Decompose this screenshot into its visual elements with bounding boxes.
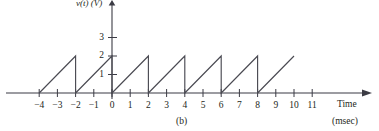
x-tick-label: −1 <box>86 101 102 111</box>
x-tick-label: −4 <box>31 101 47 111</box>
x-axis <box>6 90 372 97</box>
x-tick-label: 6 <box>213 101 229 111</box>
x-tick-label: 7 <box>231 101 247 111</box>
x-tick-label: 9 <box>268 101 284 111</box>
figure-sawtooth-waveform: v(t) (V) 3 2 1 −4 −3 −2 −1 0 1 2 3 4 5 6… <box>0 0 379 131</box>
figure-caption: (b) <box>176 117 187 127</box>
x-tick-label: 0 <box>104 101 120 111</box>
plot-canvas <box>0 0 379 131</box>
x-axis-title: Time <box>337 100 357 110</box>
x-tick-label: −3 <box>49 101 65 111</box>
x-tick-label: 4 <box>177 101 193 111</box>
y-tick-label: 3 <box>88 33 104 43</box>
x-tick-label: 2 <box>140 101 156 111</box>
x-axis-unit-label: (msec) <box>332 117 358 127</box>
x-tick-label: 10 <box>286 101 302 111</box>
y-tick-label: 2 <box>88 51 104 61</box>
waveform-trace <box>39 56 294 93</box>
y-axis-label: v(t) (V) <box>76 0 102 8</box>
x-tick-label: 5 <box>195 101 211 111</box>
x-tick-label: 3 <box>159 101 175 111</box>
x-tick-label: 1 <box>122 101 138 111</box>
x-tick-label: −2 <box>68 101 84 111</box>
x-tick-label: 11 <box>304 101 320 111</box>
y-tick-label: 1 <box>88 70 104 80</box>
x-tick-label: 8 <box>250 101 266 111</box>
